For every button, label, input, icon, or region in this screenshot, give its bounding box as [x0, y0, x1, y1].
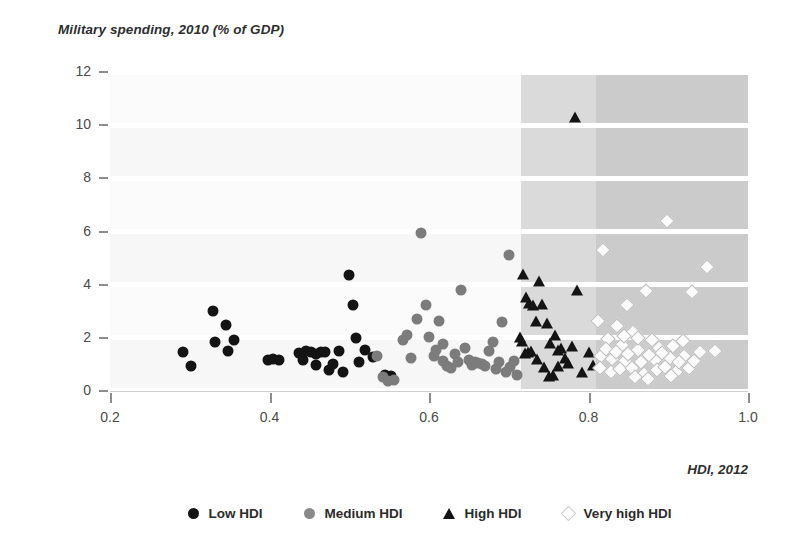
- gridline: [110, 123, 748, 128]
- data-point-medium-hdi: [424, 331, 435, 342]
- legend-swatch-very-high-hdi: [562, 507, 575, 520]
- data-point-medium-hdi: [479, 360, 490, 371]
- data-point-high-hdi: [536, 298, 548, 309]
- y-axis-title: Military spending, 2010 (% of GDP): [58, 22, 284, 37]
- data-point-low-hdi: [320, 346, 331, 357]
- y-axis-tick-label: 6: [57, 223, 91, 239]
- background-band: [110, 75, 521, 123]
- legend-marker-glyph: [304, 508, 315, 519]
- x-axis-tick: [110, 393, 112, 403]
- data-point-medium-hdi: [452, 356, 463, 367]
- y-axis-tick: [99, 284, 108, 286]
- plot-area: [110, 72, 748, 391]
- data-point-high-hdi: [566, 341, 578, 352]
- y-axis-tick: [99, 71, 108, 73]
- data-point-low-hdi: [274, 354, 285, 365]
- legend-item[interactable]: Medium HDI: [303, 506, 403, 521]
- legend-item-label: Medium HDI: [325, 506, 403, 521]
- data-point-low-hdi: [220, 319, 231, 330]
- data-point-medium-hdi: [431, 344, 442, 355]
- data-point-low-hdi: [186, 360, 197, 371]
- data-point-high-hdi: [549, 330, 561, 341]
- y-axis-tick: [99, 177, 108, 179]
- data-point-low-hdi: [228, 334, 239, 345]
- y-axis-tick: [99, 231, 108, 233]
- legend-item[interactable]: Low HDI: [187, 506, 263, 521]
- data-point-low-hdi: [337, 366, 348, 377]
- y-axis-tick: [99, 390, 108, 392]
- data-point-high-hdi: [552, 360, 564, 371]
- y-axis-tick-label: 10: [57, 116, 91, 132]
- data-point-low-hdi: [350, 333, 361, 344]
- legend-item-label: Very high HDI: [584, 506, 672, 521]
- gridline: [110, 229, 748, 234]
- x-axis-tick-label: 1.0: [723, 409, 773, 425]
- legend-marker-glyph: [443, 508, 455, 519]
- background-band: [110, 128, 521, 176]
- data-point-medium-hdi: [416, 227, 427, 238]
- data-point-medium-hdi: [487, 336, 498, 347]
- y-axis-tick-label: 8: [57, 169, 91, 185]
- data-point-medium-hdi: [494, 356, 505, 367]
- data-point-high-hdi: [533, 276, 545, 287]
- x-axis-tick: [270, 393, 272, 403]
- data-point-high-hdi: [517, 268, 529, 279]
- data-point-medium-hdi: [455, 284, 466, 295]
- gridline: [110, 282, 748, 287]
- data-point-low-hdi: [333, 346, 344, 357]
- chart-legend: Low HDIMedium HDIHigh HDIVery high HDI: [110, 500, 748, 526]
- x-axis-tick: [429, 393, 431, 403]
- data-point-low-hdi: [353, 356, 364, 367]
- legend-item[interactable]: High HDI: [443, 506, 522, 521]
- x-axis-title: HDI, 2012: [687, 462, 748, 477]
- data-point-medium-hdi: [412, 314, 423, 325]
- data-point-high-hdi: [571, 284, 583, 295]
- data-point-medium-hdi: [508, 356, 519, 367]
- data-point-low-hdi: [328, 358, 339, 369]
- gridline: [110, 70, 748, 75]
- legend-item-label: Low HDI: [209, 506, 263, 521]
- data-point-low-hdi: [207, 306, 218, 317]
- y-axis-tick: [99, 337, 108, 339]
- y-axis-tick-label: 4: [57, 276, 91, 292]
- legend-swatch-medium-hdi: [303, 507, 316, 520]
- legend-swatch-high-hdi: [443, 507, 456, 520]
- legend-item[interactable]: Very high HDI: [562, 506, 672, 521]
- data-point-medium-hdi: [459, 342, 470, 353]
- data-point-medium-hdi: [388, 374, 399, 385]
- data-point-low-hdi: [297, 354, 308, 365]
- data-point-medium-hdi: [406, 352, 417, 363]
- x-axis-tick-label: 0.2: [85, 409, 135, 425]
- data-point-medium-hdi: [420, 300, 431, 311]
- x-axis-tick-label: 0.6: [404, 409, 454, 425]
- data-point-medium-hdi: [511, 369, 522, 380]
- data-point-high-hdi: [569, 112, 581, 123]
- x-axis-tick: [589, 393, 591, 403]
- data-point-medium-hdi: [372, 351, 383, 362]
- y-axis-tick-label: 0: [57, 382, 91, 398]
- data-point-low-hdi: [210, 336, 221, 347]
- x-axis-tick-label: 0.4: [245, 409, 295, 425]
- data-point-low-hdi: [223, 346, 234, 357]
- x-axis-tick: [748, 393, 750, 403]
- legend-marker-glyph: [188, 508, 199, 519]
- x-axis-line: [110, 391, 748, 392]
- gridline: [110, 176, 748, 181]
- legend-marker-glyph: [560, 505, 576, 521]
- legend-swatch-low-hdi: [187, 507, 200, 520]
- data-point-medium-hdi: [433, 316, 444, 327]
- y-axis-tick-label: 12: [57, 63, 91, 79]
- data-point-medium-hdi: [401, 330, 412, 341]
- data-point-low-hdi: [310, 359, 321, 370]
- legend-item-label: High HDI: [465, 506, 522, 521]
- y-axis-tick: [99, 124, 108, 126]
- scatter-chart-figure: Military spending, 2010 (% of GDP) 02468…: [0, 0, 806, 554]
- y-axis-tick-label: 2: [57, 329, 91, 345]
- x-axis-tick-label: 0.8: [564, 409, 614, 425]
- data-point-low-hdi: [344, 270, 355, 281]
- background-band: [110, 181, 521, 229]
- background-band: [110, 234, 521, 282]
- data-point-medium-hdi: [497, 317, 508, 328]
- data-point-medium-hdi: [503, 249, 514, 260]
- data-point-low-hdi: [178, 347, 189, 358]
